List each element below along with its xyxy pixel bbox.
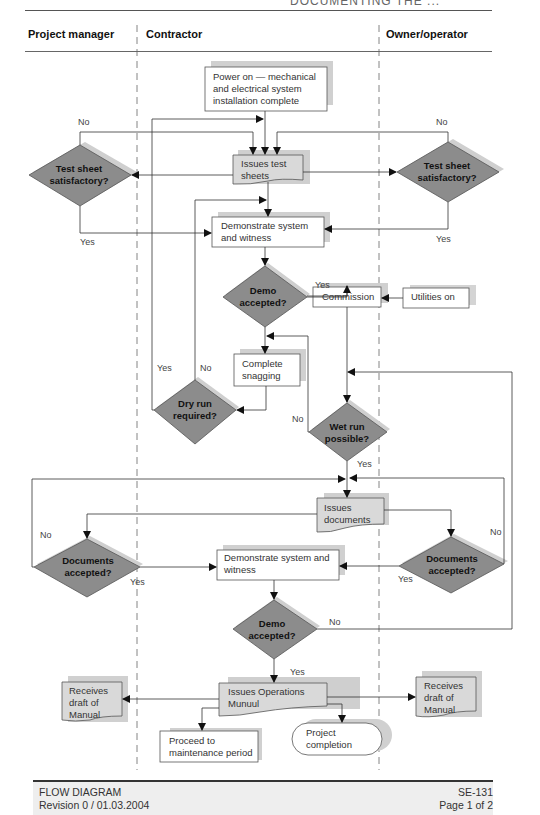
node-issues-operations-manual-label: Issues Operations Munuul [228, 686, 320, 710]
decision-documents-pm-label: Documents accepted? [56, 555, 120, 579]
label-yes-demo-1: Yes [315, 280, 330, 290]
node-commission-label: Commission [322, 291, 382, 303]
footer-doc-id: SE-131 [439, 786, 493, 799]
label-no-test-owner: No [436, 117, 448, 127]
decision-dry-run-label: Dry run required? [170, 398, 220, 422]
document-footer: FLOW DIAGRAM Revision 0 / 01.03.2004 SE-… [33, 780, 493, 815]
node-complete-snagging-label: Complete snagging [242, 358, 298, 382]
label-no-demo-2: No [329, 617, 341, 627]
decision-test-sheet-owner-label: Test sheet satisfactory? [416, 160, 478, 184]
decision-test-sheet-pm-label: Test sheet satisfactory? [48, 163, 110, 187]
node-receives-draft-left-label: Receives draft of Manual [69, 685, 119, 721]
label-yes-test-owner: Yes [436, 234, 451, 244]
node-demonstrate-2-label: Demonstrate system and witness [224, 552, 340, 576]
label-no-test-pm: No [78, 117, 90, 127]
label-no-wet-run: No [292, 414, 304, 424]
node-issues-documents-label: Issues documents [324, 502, 380, 526]
node-receives-draft-right-label: Receives draft of Manual [424, 680, 474, 716]
label-yes-dry-run: Yes [157, 363, 172, 373]
node-power-on-label: Power on — mechanical and electrical sys… [213, 71, 325, 107]
decision-demo-accepted-1-label: Demo accepted? [238, 285, 288, 309]
node-project-completion-label: Project completion [306, 727, 376, 751]
footer-revision: Revision 0 / 01.03.2004 [39, 799, 149, 812]
label-yes-wet-run: Yes [357, 459, 372, 469]
decision-documents-owner-label: Documents accepted? [420, 553, 484, 577]
label-yes-test-pm: Yes [80, 237, 95, 247]
label-no-dry-run: No [200, 363, 212, 373]
node-proceed-maintenance-label: Proceed to maintenance period [169, 735, 257, 759]
decision-demo-accepted-2-label: Demo accepted? [247, 618, 297, 642]
node-demonstrate-1-label: Demonstrate system and witness [221, 220, 321, 244]
label-yes-documents-pm: Yes [130, 577, 145, 587]
label-yes-documents-owner: Yes [398, 574, 413, 584]
label-yes-demo-2: Yes [290, 667, 305, 677]
footer-title: FLOW DIAGRAM [39, 786, 149, 799]
node-utilities-on-label: Utilities on [411, 291, 471, 303]
footer-page: Page 1 of 2 [439, 799, 493, 812]
decision-wet-run-label: Wet run possible? [322, 421, 372, 445]
label-no-documents-pm: No [40, 530, 52, 540]
label-no-documents-owner: No [490, 527, 502, 537]
node-issues-test-sheets-label: Issues test sheets [241, 158, 301, 182]
